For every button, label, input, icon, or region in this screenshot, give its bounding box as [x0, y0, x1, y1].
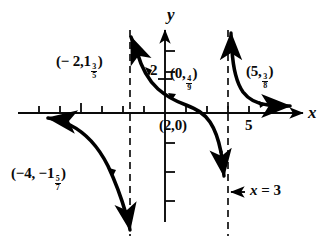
- asymptote-equals: =: [261, 182, 270, 198]
- curve-branch-middle-bottom-arrow: [221, 152, 224, 176]
- fraction: 35: [91, 63, 97, 80]
- figure-canvas: y x 2 5 (− 2,135) (0,49) (5,38) (2,0) (−…: [0, 0, 333, 245]
- fraction-denominator: 8: [262, 81, 268, 90]
- point-x-part: 0,: [175, 65, 186, 81]
- y-axis-label: y: [167, 6, 175, 23]
- asymptote-variable: x: [250, 182, 258, 198]
- point-label-left-upper: (− 2,135): [56, 54, 102, 80]
- paren-close: ): [98, 53, 103, 69]
- x-tick-label-5: 5: [245, 118, 253, 133]
- asymptote-value: 3: [274, 182, 282, 198]
- x-axis-label: x: [308, 104, 317, 121]
- fraction-numerator: 5: [55, 175, 61, 183]
- asymptote-equation-label: x = 3: [250, 183, 281, 198]
- point-x-part: −4, −1: [16, 165, 54, 181]
- x-axis-ticks: [39, 103, 270, 113]
- paren-close: ): [268, 63, 273, 79]
- point-x-part: − 2,: [61, 53, 84, 69]
- curve-branch-right-top-arrow: [231, 33, 232, 50]
- point-label-lower-left: (−4, −157): [11, 166, 66, 192]
- point-x-part: 5,: [251, 63, 262, 79]
- point-label-y-intercept: (0,49): [170, 66, 197, 92]
- fraction-denominator: 7: [55, 183, 61, 192]
- fraction-numerator: 3: [91, 63, 97, 71]
- curve-branch-middle-top-arrow: [131, 37, 137, 52]
- point-whole-part: 1: [84, 53, 91, 69]
- fraction: 57: [55, 175, 61, 192]
- paren-close: ): [61, 165, 66, 181]
- point-label-x-intercept: (2,0): [159, 118, 187, 133]
- point-label-right-branch: (5,38): [246, 64, 273, 90]
- paren-close: ): [192, 65, 197, 81]
- fraction-denominator: 5: [91, 71, 97, 80]
- fraction-denominator: 9: [186, 83, 192, 92]
- y-tick-label-2: 2: [150, 63, 158, 78]
